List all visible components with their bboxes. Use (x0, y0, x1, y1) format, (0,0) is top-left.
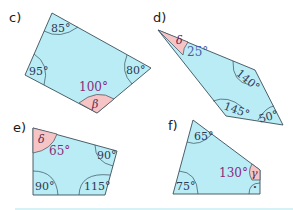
angle-label: 80° (126, 64, 146, 77)
figure-c-label: c) (9, 10, 21, 25)
figure-e: e) δ 65° 90° 90° 115° (13, 120, 117, 195)
angle-label: 25° (187, 45, 208, 59)
unknown-angle-gamma: γ (251, 167, 258, 180)
unknown-angle-delta: δ (176, 34, 183, 47)
angle-label: 95° (29, 65, 49, 78)
angle-label: 90° (35, 180, 55, 193)
figure-c: c) 85° 95° 80° 100° β (9, 10, 151, 113)
right-angle-dot: · (253, 181, 257, 194)
figure-f: f) 65° 75° 130° γ · (168, 118, 260, 194)
angle-label: 85° (51, 22, 71, 35)
angle-label: 75° (176, 180, 196, 193)
quadrilateral-exercises: c) 85° 95° 80° 100° β d) δ 25° 140° 145°… (0, 0, 293, 210)
figure-d-label: d) (153, 10, 166, 25)
angle-label: 100° (79, 80, 108, 94)
angle-label: 65° (194, 130, 214, 143)
figure-e-label: e) (13, 120, 26, 135)
angle-label: 115° (84, 180, 111, 193)
figure-d: d) δ 25° 140° 145° 50° (153, 10, 283, 126)
figure-f-label: f) (168, 118, 178, 133)
angle-label: 90° (97, 149, 117, 162)
unknown-angle-delta: δ (38, 133, 45, 146)
angle-label: 130° (219, 166, 248, 180)
unknown-angle-sector (158, 30, 188, 55)
angle-label: 65° (49, 144, 70, 158)
unknown-angle-beta: β (91, 98, 98, 111)
